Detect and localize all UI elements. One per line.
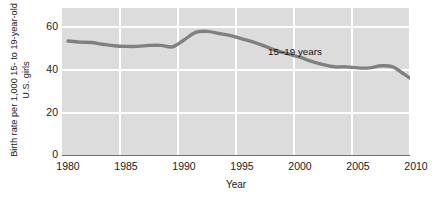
series-annotation-label: 15–19 years bbox=[268, 46, 322, 57]
series-line-15-19-years bbox=[62, 8, 410, 155]
x-axis-line bbox=[62, 155, 410, 156]
y-axis-title-line1: Birth rate per 1,000 15- to 19-year-old bbox=[9, 3, 19, 157]
x-tick-label-2010: 2010 bbox=[394, 160, 432, 172]
y-tick-label-60: 60 bbox=[34, 21, 58, 32]
x-tick-label-1990: 1990 bbox=[162, 160, 206, 172]
y-axis-title-line2: U.S. girls bbox=[20, 3, 32, 157]
y-tick-label-20: 20 bbox=[34, 107, 58, 118]
x-axis-title: Year bbox=[62, 179, 410, 190]
y-tick-label-40: 40 bbox=[34, 64, 58, 75]
x-tick-label-2000: 2000 bbox=[278, 160, 322, 172]
x-tick-label-1995: 1995 bbox=[220, 160, 264, 172]
plot-area bbox=[62, 8, 410, 155]
y-tick-label-0: 0 bbox=[34, 149, 58, 160]
x-tick-label-2005: 2005 bbox=[336, 160, 380, 172]
x-tick-label-1985: 1985 bbox=[104, 160, 148, 172]
x-tick-label-1980: 1980 bbox=[46, 160, 90, 172]
